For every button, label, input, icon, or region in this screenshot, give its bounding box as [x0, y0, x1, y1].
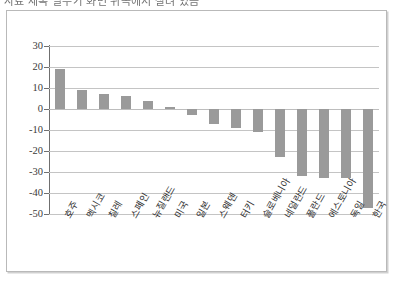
y-axis-tick: [44, 193, 49, 194]
y-axis-tick: [44, 130, 49, 131]
bar: [121, 96, 131, 109]
y-axis-tick: [44, 151, 49, 152]
bar: [187, 109, 197, 115]
gridline: [49, 67, 379, 68]
y-axis-tick: [44, 172, 49, 173]
bar: [275, 109, 285, 157]
gridline: [49, 151, 379, 152]
y-axis-tick-label: 30: [9, 41, 43, 52]
y-axis-tick-label: 20: [9, 62, 43, 73]
y-axis-tick-label: -10: [9, 125, 43, 136]
bar: [297, 109, 307, 176]
y-axis-labels: 3020100-10-20-30-40-50: [7, 11, 43, 273]
y-axis-tick: [44, 214, 49, 215]
gridline: [49, 46, 379, 47]
x-axis-labels: 호주멕시코칠레스페인뉴질랜드미국일본스웨덴터키슬로베니아네덜란드폴란드에스토니아…: [49, 215, 385, 273]
y-axis-tick: [44, 67, 49, 68]
y-axis-tick: [44, 88, 49, 89]
y-axis-tick-label: -40: [9, 188, 43, 199]
y-axis-tick-label: 10: [9, 83, 43, 94]
gridline: [49, 172, 379, 173]
y-axis-tick-label: -20: [9, 146, 43, 157]
clipped-title-text: 자료 제목 일부가 화면 위쪽에서 잘려 있음: [4, 0, 200, 7]
gridline: [49, 130, 379, 131]
y-axis-tick-label: 0: [9, 104, 43, 115]
bar: [143, 101, 153, 109]
bar: [363, 109, 373, 208]
y-axis-tick: [44, 46, 49, 47]
chart-frame: 3020100-10-20-30-40-50 호주멕시코칠레스페인뉴질랜드미국일…: [6, 10, 387, 272]
bar: [209, 109, 219, 124]
y-axis-tick-label: -30: [9, 167, 43, 178]
bar: [319, 109, 329, 178]
plot-area: [49, 46, 379, 214]
bar: [231, 109, 241, 128]
bar: [55, 69, 65, 109]
clipped-title: 자료 제목 일부가 화면 위쪽에서 잘려 있음: [0, 0, 398, 9]
bar: [165, 107, 175, 109]
bar: [99, 94, 109, 109]
bar: [253, 109, 263, 132]
bar: [341, 109, 351, 178]
y-axis-tick: [44, 109, 49, 110]
bar: [77, 90, 87, 109]
y-axis-tick-label: -50: [9, 209, 43, 220]
gridline: [49, 88, 379, 89]
